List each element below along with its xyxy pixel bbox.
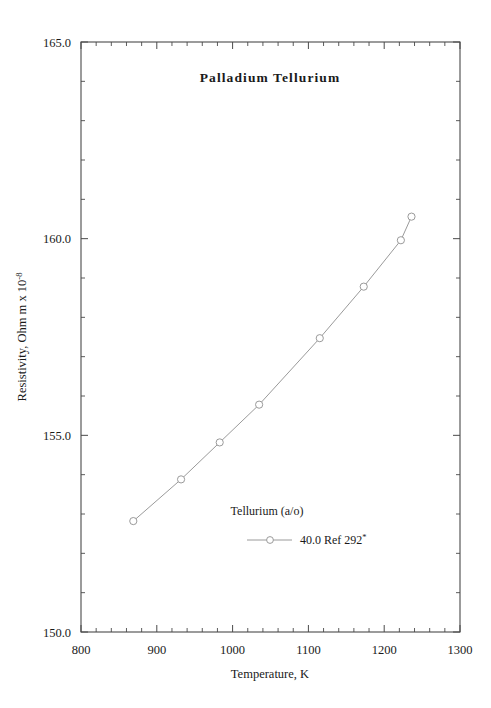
y-axis-title: Resistivity, Ohm m x 10-8 — [14, 273, 29, 402]
chart-title: Palladium Tellurium — [200, 70, 341, 85]
y-tick-label: 160.0 — [43, 232, 71, 246]
data-point-marker — [408, 213, 415, 220]
x-tick-label: 800 — [72, 643, 91, 657]
y-tick-label: 150.0 — [43, 626, 71, 640]
chart-figure: 8009001000110012001300 150.0155.0160.016… — [0, 0, 491, 708]
resistivity-vs-temperature-chart: 8009001000110012001300 150.0155.0160.016… — [0, 0, 491, 708]
x-tick-label: 1200 — [372, 643, 397, 657]
x-tick-label: 1000 — [220, 643, 245, 657]
figure-background — [0, 0, 491, 708]
x-axis-title: Temperature, K — [231, 667, 309, 681]
data-point-marker — [177, 476, 184, 483]
data-point-marker — [216, 439, 223, 446]
y-tick-label: 155.0 — [43, 429, 71, 443]
x-tick-label: 1300 — [448, 643, 473, 657]
legend-header: Tellurium (a/o) — [231, 504, 304, 518]
data-point-marker — [360, 283, 367, 290]
y-axis-title-group: Resistivity, Ohm m x 10-8 — [14, 273, 29, 402]
legend-entry-label: 40.0 Ref 292* — [300, 532, 367, 547]
data-point-marker — [130, 517, 137, 524]
data-point-marker — [397, 237, 404, 244]
y-tick-label: 165.0 — [43, 36, 71, 50]
x-tick-label: 900 — [147, 643, 166, 657]
legend-sample-marker-icon — [267, 537, 274, 544]
x-tick-label: 1100 — [296, 643, 321, 657]
data-point-marker — [316, 335, 323, 342]
data-point-marker — [256, 401, 263, 408]
